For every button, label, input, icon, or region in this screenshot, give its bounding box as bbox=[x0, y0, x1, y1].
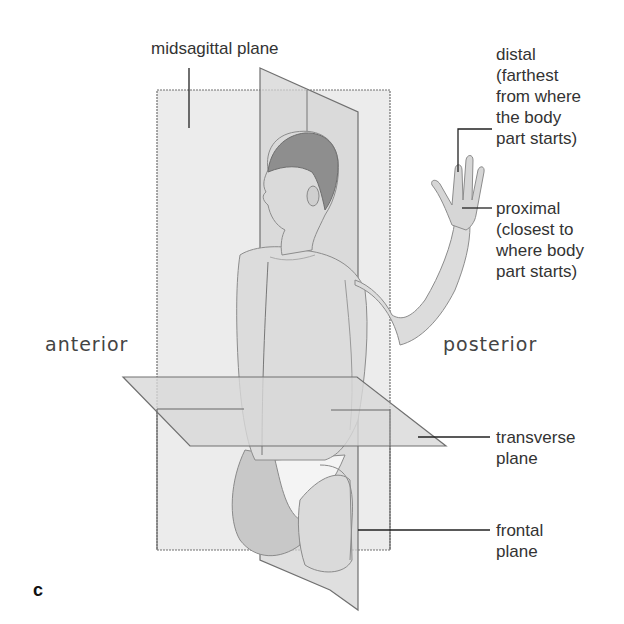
label-posterior: posterior bbox=[443, 333, 537, 355]
label-anterior: anterior bbox=[45, 333, 128, 355]
label-midsagittal-plane: midsagittal plane bbox=[151, 38, 279, 59]
distal-leader bbox=[458, 129, 492, 172]
anatomical-planes-figure: midsagittal plane distal (farthest from … bbox=[0, 0, 624, 624]
label-distal: distal (farthest from where the body par… bbox=[496, 44, 581, 149]
panel-letter: c bbox=[33, 580, 43, 601]
label-transverse-plane: transverse plane bbox=[496, 427, 575, 469]
label-frontal-plane: frontal plane bbox=[496, 520, 543, 562]
label-proximal: proximal (closest to where body part sta… bbox=[496, 198, 584, 282]
